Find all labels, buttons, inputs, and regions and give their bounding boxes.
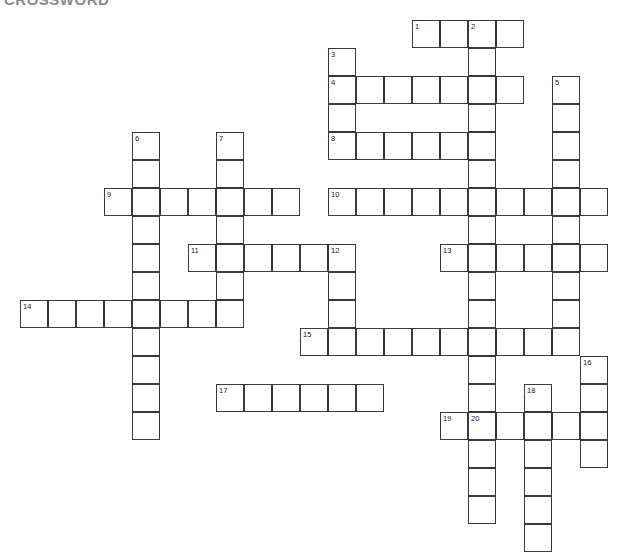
crossword-cell[interactable] bbox=[132, 216, 160, 244]
crossword-cell[interactable] bbox=[216, 216, 244, 244]
crossword-cell[interactable] bbox=[328, 244, 356, 272]
crossword-cell[interactable] bbox=[580, 440, 608, 468]
crossword-cell[interactable] bbox=[552, 412, 580, 440]
crossword-cell[interactable] bbox=[468, 356, 496, 384]
crossword-cell[interactable] bbox=[468, 48, 496, 76]
crossword-cell[interactable] bbox=[440, 244, 468, 272]
crossword-cell[interactable] bbox=[552, 132, 580, 160]
crossword-cell[interactable] bbox=[132, 160, 160, 188]
crossword-cell[interactable] bbox=[216, 132, 244, 160]
crossword-cell[interactable] bbox=[328, 188, 356, 216]
crossword-cell[interactable] bbox=[216, 384, 244, 412]
crossword-cell[interactable] bbox=[48, 300, 76, 328]
crossword-cell[interactable] bbox=[468, 496, 496, 524]
crossword-cell[interactable] bbox=[552, 300, 580, 328]
crossword-cell[interactable] bbox=[384, 328, 412, 356]
crossword-cell[interactable] bbox=[468, 300, 496, 328]
crossword-cell[interactable] bbox=[20, 300, 48, 328]
crossword-cell[interactable] bbox=[160, 300, 188, 328]
crossword-cell[interactable] bbox=[468, 216, 496, 244]
crossword-cell[interactable] bbox=[552, 272, 580, 300]
crossword-cell[interactable] bbox=[524, 524, 552, 552]
crossword-cell[interactable] bbox=[552, 104, 580, 132]
crossword-cell[interactable] bbox=[468, 440, 496, 468]
crossword-cell[interactable] bbox=[300, 384, 328, 412]
crossword-cell[interactable] bbox=[300, 328, 328, 356]
crossword-cell[interactable] bbox=[524, 328, 552, 356]
crossword-cell[interactable] bbox=[524, 440, 552, 468]
crossword-cell[interactable] bbox=[468, 412, 496, 440]
crossword-cell[interactable] bbox=[300, 244, 328, 272]
crossword-cell[interactable] bbox=[328, 48, 356, 76]
crossword-cell[interactable] bbox=[496, 20, 524, 48]
crossword-cell[interactable] bbox=[524, 384, 552, 412]
crossword-cell[interactable] bbox=[440, 328, 468, 356]
crossword-cell[interactable] bbox=[496, 412, 524, 440]
crossword-cell[interactable] bbox=[552, 244, 580, 272]
crossword-cell[interactable] bbox=[552, 76, 580, 104]
crossword-cell[interactable] bbox=[132, 132, 160, 160]
crossword-cell[interactable] bbox=[412, 328, 440, 356]
crossword-cell[interactable] bbox=[328, 384, 356, 412]
crossword-cell[interactable] bbox=[188, 300, 216, 328]
crossword-cell[interactable] bbox=[524, 496, 552, 524]
crossword-cell[interactable] bbox=[440, 188, 468, 216]
crossword-cell[interactable] bbox=[272, 244, 300, 272]
crossword-cell[interactable] bbox=[216, 188, 244, 216]
crossword-cell[interactable] bbox=[412, 132, 440, 160]
crossword-cell[interactable] bbox=[440, 132, 468, 160]
crossword-cell[interactable] bbox=[496, 328, 524, 356]
crossword-cell[interactable] bbox=[216, 272, 244, 300]
crossword-cell[interactable] bbox=[188, 188, 216, 216]
crossword-cell[interactable] bbox=[384, 76, 412, 104]
crossword-cell[interactable] bbox=[244, 244, 272, 272]
crossword-cell[interactable] bbox=[132, 356, 160, 384]
crossword-cell[interactable] bbox=[216, 244, 244, 272]
crossword-cell[interactable] bbox=[104, 300, 132, 328]
crossword-cell[interactable] bbox=[244, 384, 272, 412]
crossword-cell[interactable] bbox=[468, 160, 496, 188]
crossword-cell[interactable] bbox=[580, 188, 608, 216]
crossword-cell[interactable] bbox=[328, 76, 356, 104]
crossword-cell[interactable] bbox=[272, 384, 300, 412]
crossword-cell[interactable] bbox=[356, 188, 384, 216]
crossword-cell[interactable] bbox=[524, 412, 552, 440]
crossword-cell[interactable] bbox=[552, 328, 580, 356]
crossword-cell[interactable] bbox=[216, 160, 244, 188]
crossword-cell[interactable] bbox=[524, 468, 552, 496]
crossword-cell[interactable] bbox=[356, 76, 384, 104]
crossword-cell[interactable] bbox=[468, 244, 496, 272]
crossword-cell[interactable] bbox=[104, 188, 132, 216]
crossword-cell[interactable] bbox=[76, 300, 104, 328]
crossword-cell[interactable] bbox=[384, 188, 412, 216]
crossword-cell[interactable] bbox=[412, 76, 440, 104]
crossword-cell[interactable] bbox=[468, 76, 496, 104]
crossword-cell[interactable] bbox=[496, 188, 524, 216]
crossword-cell[interactable] bbox=[356, 328, 384, 356]
crossword-cell[interactable] bbox=[328, 300, 356, 328]
crossword-cell[interactable] bbox=[468, 328, 496, 356]
crossword-cell[interactable] bbox=[328, 328, 356, 356]
crossword-cell[interactable] bbox=[328, 104, 356, 132]
crossword-cell[interactable] bbox=[132, 244, 160, 272]
crossword-cell[interactable] bbox=[580, 412, 608, 440]
crossword-cell[interactable] bbox=[496, 76, 524, 104]
crossword-cell[interactable] bbox=[244, 188, 272, 216]
crossword-cell[interactable] bbox=[496, 244, 524, 272]
crossword-cell[interactable] bbox=[468, 468, 496, 496]
crossword-cell[interactable] bbox=[524, 188, 552, 216]
crossword-cell[interactable] bbox=[132, 384, 160, 412]
crossword-cell[interactable] bbox=[440, 412, 468, 440]
crossword-cell[interactable] bbox=[524, 244, 552, 272]
crossword-cell[interactable] bbox=[132, 272, 160, 300]
crossword-cell[interactable] bbox=[328, 132, 356, 160]
crossword-cell[interactable] bbox=[552, 188, 580, 216]
crossword-cell[interactable] bbox=[412, 188, 440, 216]
crossword-cell[interactable] bbox=[468, 104, 496, 132]
crossword-cell[interactable] bbox=[356, 132, 384, 160]
crossword-cell[interactable] bbox=[132, 300, 160, 328]
crossword-cell[interactable] bbox=[272, 188, 300, 216]
crossword-cell[interactable] bbox=[580, 384, 608, 412]
crossword-cell[interactable] bbox=[468, 272, 496, 300]
